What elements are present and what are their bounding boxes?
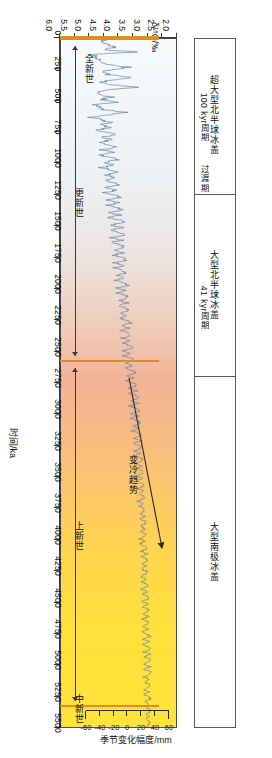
time-tick-label: 1500	[53, 211, 63, 231]
delta18o-tick-label: 2.0	[161, 19, 171, 31]
time-tick-label: 750	[53, 120, 63, 135]
time-tick-label: 3000	[53, 400, 63, 420]
time-tick-label: 1250	[53, 180, 63, 200]
time-tick-label: 2500	[53, 337, 63, 357]
seasonality-axis-title: 季节变化幅度/mm	[100, 733, 172, 746]
time-tick-label: 4500	[53, 588, 63, 608]
seasonality-tick-label: -60	[77, 723, 95, 732]
delta18o-tick-label: 4.0	[103, 19, 113, 31]
time-tick-label: 4000	[53, 525, 63, 545]
delta18o-tick-label: 6.0	[44, 19, 54, 31]
time-tick-label: 500	[53, 88, 63, 103]
seasonality-tick	[113, 711, 114, 716]
time-tick-label: 3500	[53, 462, 63, 482]
time-tick-label: 1000	[53, 149, 63, 169]
time-tick-label: 2000	[53, 274, 63, 294]
delta18o-tick-label: 5.5	[59, 19, 69, 31]
ice-sheet-regime-label: 超大型北半球冰盖	[209, 75, 222, 155]
time-tick-label: 4250	[53, 556, 63, 576]
delta18o-tick-label: 3.5	[117, 19, 127, 31]
delta18o-tick	[176, 33, 177, 38]
epoch-boundary-rule	[60, 360, 159, 362]
delta18o-trace	[88, 38, 152, 727]
ice-sheet-regime-label: 大型南极冰盖	[209, 522, 222, 582]
time-tick-label: 250	[53, 57, 63, 72]
paleoclimate-figure: 大型南极冰盖大型北半球冰盖超大型北半球冰盖 025050075010001250…	[0, 0, 272, 758]
time-tick-label: 5500	[53, 713, 63, 733]
delta18o-curve	[60, 38, 176, 727]
epoch-label: 全新世	[83, 54, 96, 84]
time-axis-title: 时间/ka	[7, 428, 20, 458]
time-tick-label: 0	[53, 31, 63, 36]
delta18o-tick-label: 4.5	[88, 19, 98, 31]
delta18o-tick-label: 3.0	[132, 19, 142, 31]
time-tick-label: 3750	[53, 494, 63, 514]
seasonality-tick	[127, 711, 128, 716]
time-tick-label: 3250	[53, 431, 63, 451]
epoch-label: 上新世	[73, 521, 86, 551]
time-tick-label: 5250	[53, 682, 63, 702]
cycle-100kyr-label: 100 kyr周期	[198, 93, 210, 143]
time-tick-label: 2750	[53, 368, 63, 388]
ice-sheet-regime-label: 大型北半球冰盖	[209, 250, 222, 320]
epoch-label: 更新世	[73, 188, 86, 218]
epoch-boundary-rule	[60, 37, 159, 39]
time-tick-label: 5000	[53, 650, 63, 670]
epoch-boundary-rule	[60, 38, 159, 40]
seasonality-tick	[140, 711, 141, 716]
plot-area	[60, 38, 177, 728]
ice-sheet-regime-cell: 大型北半球冰盖	[195, 194, 235, 376]
cooling-trend-label: 变冷趋势	[127, 455, 140, 495]
seasonality-tick	[168, 711, 169, 719]
time-tick-label: 4750	[53, 619, 63, 639]
time-tick-label: 1750	[53, 243, 63, 263]
delta18o-tick-label: 5.0	[73, 19, 83, 31]
cycle-41kyr-label: 41 kyr周期	[198, 286, 210, 331]
seasonality-tick	[99, 711, 100, 716]
delta18o-tick	[161, 33, 162, 38]
transition-label: 过渡期	[198, 165, 210, 194]
seasonality-tick	[154, 711, 155, 716]
time-tick-label: 2250	[53, 305, 63, 325]
ice-sheet-regime-cell: 大型南极冰盖	[195, 376, 235, 727]
